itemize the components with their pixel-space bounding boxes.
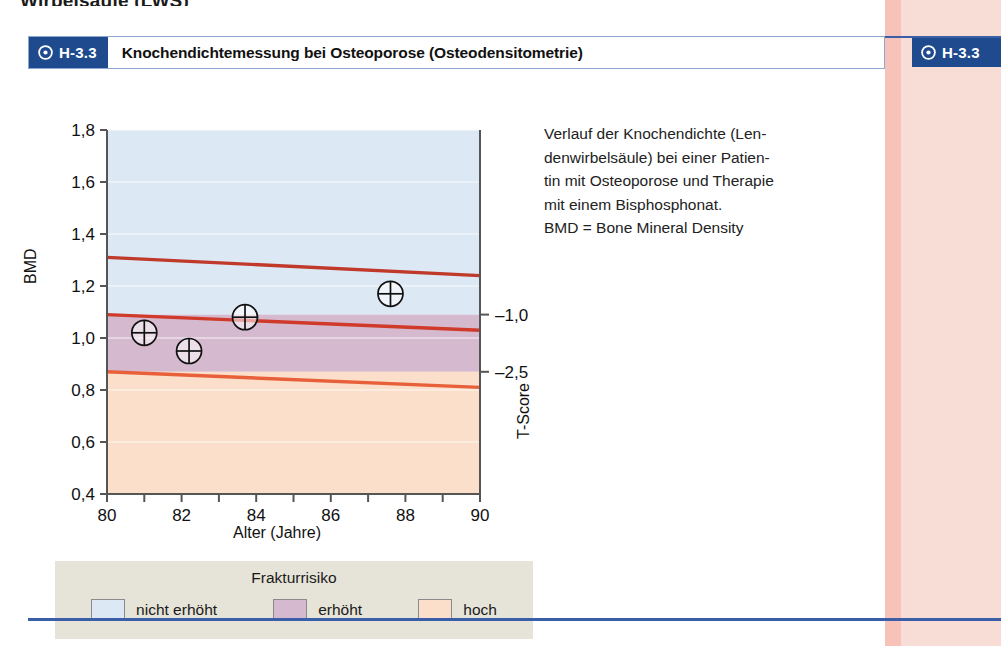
- caption-line: mit einem Bisphosphonat.: [544, 193, 874, 217]
- svg-text:1,6: 1,6: [71, 173, 95, 192]
- cut-off-heading: Wirbelsäule (LWS): [20, 0, 189, 6]
- margin-figure-tab[interactable]: H-3.3: [912, 38, 1001, 67]
- svg-text:90: 90: [471, 506, 490, 525]
- risk-band-nicht-erhöht: [107, 130, 480, 315]
- svg-text:86: 86: [321, 506, 340, 525]
- caption-line: Verlauf der Knochendichte (Len-: [544, 122, 874, 146]
- figure-title-bar: H-3.3 Knochendichtemessung bei Osteoporo…: [28, 36, 885, 69]
- svg-text:88: 88: [396, 506, 415, 525]
- data-point-marker: [378, 281, 403, 306]
- right-margin-column: [885, 0, 1001, 646]
- legend-swatch-erhoeht: [273, 599, 307, 620]
- svg-text:–2,5: –2,5: [495, 363, 528, 382]
- legend-item: erhöht: [273, 599, 362, 620]
- data-point-marker: [233, 305, 258, 330]
- caption-line: tin mit Osteoporose und Therapie: [544, 169, 874, 193]
- legend-items: nicht erhöht erhöht hoch: [55, 599, 533, 620]
- caption-line: denwirbelsäule) bei einer Patien-: [544, 146, 874, 170]
- svg-text:1,2: 1,2: [71, 277, 95, 296]
- figure-container: H-3.3 Knochendichtemessung bei Osteoporo…: [28, 36, 885, 620]
- bone-density-chart: 0,40,60,81,01,21,41,61,8808284868890–1,0…: [28, 69, 548, 529]
- legend-item: nicht erhöht: [91, 599, 217, 620]
- margin-tab-label: H-3.3: [942, 44, 980, 61]
- legend-label: nicht erhöht: [136, 601, 217, 619]
- plot-and-caption-area: Verlauf der Knochendichte (Len- denwirbe…: [28, 69, 885, 589]
- figure-page: Wirbelsäule (LWS) H-3.3 H-3.3: [0, 0, 1001, 646]
- svg-text:1,4: 1,4: [71, 225, 95, 244]
- circled-dot-icon: [38, 45, 53, 60]
- legend-label: hoch: [463, 601, 497, 619]
- legend-label: erhöht: [318, 601, 362, 619]
- bottom-rule: [28, 618, 1001, 621]
- data-point-marker: [132, 320, 157, 345]
- svg-text:82: 82: [172, 506, 191, 525]
- chart-legend: Frakturrisiko nicht erhöht erhöht hoch: [55, 561, 533, 639]
- svg-text:1,8: 1,8: [71, 121, 95, 140]
- svg-text:–1,0: –1,0: [495, 306, 528, 325]
- circled-dot-icon: [921, 45, 936, 60]
- right-margin-stripe: [885, 0, 901, 646]
- svg-text:84: 84: [247, 506, 266, 525]
- figure-badge[interactable]: H-3.3: [29, 37, 108, 68]
- figure-badge-label: H-3.3: [59, 44, 97, 61]
- svg-text:1,0: 1,0: [71, 329, 95, 348]
- svg-text:0,8: 0,8: [71, 381, 95, 400]
- figure-caption: Verlauf der Knochendichte (Len- denwirbe…: [544, 122, 874, 240]
- legend-swatch-hoch: [418, 599, 452, 620]
- legend-item: hoch: [418, 599, 497, 620]
- svg-text:0,4: 0,4: [71, 485, 95, 504]
- figure-title: Knochendichtemessung bei Osteoporose (Os…: [108, 37, 583, 68]
- svg-text:80: 80: [98, 506, 117, 525]
- svg-text:0,6: 0,6: [71, 433, 95, 452]
- caption-line: BMD = Bone Mineral Density: [544, 216, 874, 240]
- data-point-marker: [177, 339, 202, 364]
- legend-swatch-nicht-erhoeht: [91, 599, 125, 620]
- legend-title: Frakturrisiko: [55, 569, 533, 587]
